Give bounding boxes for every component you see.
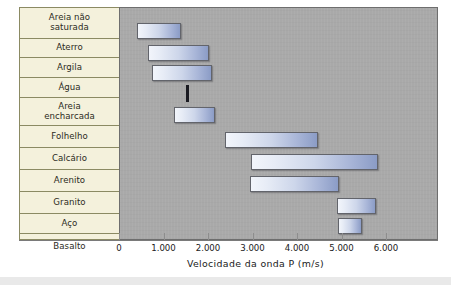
range-bar xyxy=(148,45,209,61)
x-axis-tick xyxy=(342,233,343,240)
category-label-argila: Argila xyxy=(20,58,119,78)
x-axis-tick-label: 5.000 xyxy=(329,243,354,253)
range-bar xyxy=(137,23,181,39)
category-label-granito: Granito xyxy=(20,192,119,214)
chart-frame: Areia não saturada Aterro Argila Água Ar… xyxy=(19,7,438,240)
category-label-arenito: Arenito xyxy=(20,170,119,192)
x-axis-title: Velocidade da onda P (m/s) xyxy=(0,258,451,269)
category-label-text: Aterro xyxy=(56,43,83,53)
x-axis-line xyxy=(19,240,438,241)
category-label-text: Basalto xyxy=(53,242,85,252)
x-axis-tick-label: 6.000 xyxy=(374,243,399,253)
category-label-line-2: saturada xyxy=(49,23,90,33)
range-bar xyxy=(337,198,376,214)
x-axis-tick xyxy=(253,233,254,240)
x-axis-tick xyxy=(208,233,209,240)
range-bar xyxy=(338,218,362,234)
x-axis-tick-label: 4.000 xyxy=(285,243,310,253)
x-axis-tick xyxy=(386,233,387,240)
plot-area xyxy=(119,7,438,240)
category-label-text: Argila xyxy=(57,63,82,73)
category-label-aterro: Aterro xyxy=(20,39,119,58)
range-marker-agua xyxy=(186,85,189,102)
x-axis-title-text: Velocidade da onda P (m/s) xyxy=(127,258,324,269)
category-label-aco: Aço xyxy=(20,214,119,234)
category-label-text: Folhelho xyxy=(51,132,88,142)
page-bottom-strip xyxy=(0,277,451,285)
x-axis-tick xyxy=(119,233,120,240)
category-label-areia-encharcada: Areia encharcada xyxy=(20,98,119,126)
x-axis-tick xyxy=(164,233,165,240)
category-label-calcario: Calcário xyxy=(20,148,119,170)
category-label-text: Aço xyxy=(62,219,78,229)
x-axis-tick-label: 2.000 xyxy=(196,243,221,253)
category-label-text: Calcário xyxy=(52,154,87,164)
category-label-line-2: encharcada xyxy=(44,112,95,122)
category-label-text: Arenito xyxy=(54,176,85,186)
category-label-text: Água xyxy=(58,83,80,93)
range-bar xyxy=(251,154,378,170)
category-label-agua: Água xyxy=(20,78,119,98)
range-bar xyxy=(152,65,212,81)
chart-figure: Areia não saturada Aterro Argila Água Ar… xyxy=(0,0,451,285)
x-axis-tick xyxy=(297,233,298,240)
category-label-column: Areia não saturada Aterro Argila Água Ar… xyxy=(19,7,120,240)
x-axis-tick-label: 3.000 xyxy=(240,243,265,253)
range-bar xyxy=(225,132,318,148)
range-bar xyxy=(174,107,215,123)
x-axis-tick-label: 0 xyxy=(116,243,121,253)
category-label-basalto: Basalto xyxy=(20,234,119,259)
category-label-text: Granito xyxy=(53,198,85,208)
category-label-areia-nao-saturada: Areia não saturada xyxy=(20,8,119,39)
category-label-folhelho: Folhelho xyxy=(20,126,119,148)
range-bar xyxy=(250,176,339,192)
plot-texture xyxy=(120,8,437,239)
x-axis-tick-label: 1.000 xyxy=(151,243,176,253)
